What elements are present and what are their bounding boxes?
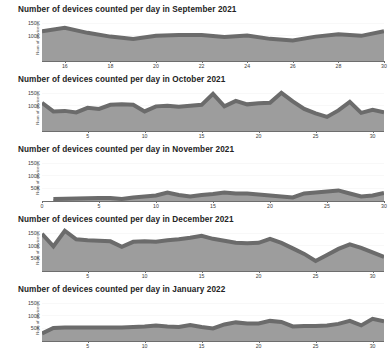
x-tick-mark — [99, 201, 100, 203]
y-tick-labels: 50K100K150K — [20, 227, 40, 271]
plot-area — [42, 87, 384, 131]
area-chart-svg — [42, 157, 384, 201]
x-tick-label: 24 — [244, 62, 250, 70]
x-tick-label: 15 — [199, 342, 205, 350]
x-tick-label: 15 — [210, 202, 216, 210]
x-tick-mark — [247, 61, 248, 63]
x-tick-mark — [338, 61, 339, 63]
x-tick-mark — [373, 131, 374, 133]
x-tick-mark — [145, 341, 146, 343]
x-tick-mark — [270, 201, 271, 203]
x-tick-mark — [145, 271, 146, 273]
x-tick-label: 0 — [41, 202, 44, 210]
charts-page: Number of devices counted per day in Sep… — [0, 0, 388, 360]
x-tick-label: 30 — [370, 132, 376, 140]
x-tick-label: 5 — [98, 202, 101, 210]
chart-title: Number of devices counted per day in Nov… — [18, 144, 388, 155]
x-tick-label: 30 — [370, 342, 376, 350]
x-tick-mark — [202, 271, 203, 273]
y-tick-labels: 50K100K150K — [20, 297, 40, 341]
x-tick-mark — [259, 341, 260, 343]
plot-row: Num of devices 100K150K 51015202530 — [0, 87, 388, 139]
y-tick-label: 50K — [31, 325, 40, 331]
x-tick-labels: 51015202530 — [42, 132, 384, 141]
x-tick-label: 10 — [153, 202, 159, 210]
x-tick-label: 10 — [142, 132, 148, 140]
x-tick-label: 5 — [86, 272, 89, 280]
x-tick-mark — [88, 341, 89, 343]
x-tick-mark — [327, 201, 328, 203]
x-tick-mark — [65, 61, 66, 63]
y-tick-label: 150K — [28, 230, 40, 236]
plot-row: Num of devices 50K100K150K 51015202530 — [0, 297, 388, 349]
x-tick-mark — [259, 131, 260, 133]
x-tick-mark — [156, 201, 157, 203]
plot-area — [42, 227, 384, 271]
x-tick-label: 26 — [290, 62, 296, 70]
x-tick-mark — [259, 271, 260, 273]
x-tick-labels: 1618202224262830 — [42, 62, 384, 71]
x-tick-mark — [293, 61, 294, 63]
x-tick-mark — [88, 271, 89, 273]
x-tick-label: 20 — [153, 62, 159, 70]
y-tick-labels: 100K150K — [20, 87, 40, 131]
x-tick-mark — [373, 341, 374, 343]
y-tick-label: 150K — [28, 90, 40, 96]
plot-area — [42, 157, 384, 201]
plot-row: Num of devices 100K150K 1618202224262830 — [0, 17, 388, 69]
x-tick-label: 20 — [267, 202, 273, 210]
x-tick-label: 30 — [381, 202, 387, 210]
x-tick-mark — [384, 61, 385, 63]
y-tick-label: 100K — [28, 103, 40, 109]
y-tick-label: 150K — [28, 160, 40, 166]
x-tick-label: 5 — [86, 132, 89, 140]
x-tick-mark — [213, 201, 214, 203]
x-tick-label: 20 — [256, 272, 262, 280]
x-tick-mark — [42, 201, 43, 203]
chart-panel-october: Number of devices counted per day in Oct… — [0, 74, 388, 144]
x-tick-label: 18 — [108, 62, 114, 70]
x-tick-label: 25 — [313, 132, 319, 140]
x-tick-mark — [145, 131, 146, 133]
y-tick-label: 150K — [28, 300, 40, 306]
y-tick-label: 100K — [28, 313, 40, 319]
y-tick-labels: 50K100K150K — [20, 157, 40, 201]
plot-row: Num of devices 50K100K150K 051015202530 — [0, 157, 388, 209]
x-tick-mark — [202, 131, 203, 133]
x-tick-mark — [202, 341, 203, 343]
chart-title: Number of devices counted per day in Jan… — [18, 284, 388, 295]
chart-panel-november: Number of devices counted per day in Nov… — [0, 144, 388, 214]
chart-panel-december: Number of devices counted per day in Dec… — [0, 214, 388, 284]
x-tick-label: 16 — [62, 62, 68, 70]
x-tick-label: 10 — [142, 342, 148, 350]
chart-title: Number of devices counted per day in Dec… — [18, 214, 388, 225]
chart-panel-september: Number of devices counted per day in Sep… — [0, 4, 388, 74]
y-tick-label: 100K — [28, 173, 40, 179]
x-tick-label: 30 — [370, 272, 376, 280]
plot-area — [42, 297, 384, 341]
x-tick-label: 15 — [199, 132, 205, 140]
y-tick-label: 150K — [28, 20, 40, 26]
area-chart-svg — [42, 87, 384, 131]
y-tick-label: 50K — [31, 255, 40, 261]
area-chart-svg — [42, 297, 384, 341]
x-tick-mark — [88, 131, 89, 133]
x-tick-mark — [373, 271, 374, 273]
x-tick-label: 20 — [256, 132, 262, 140]
x-tick-mark — [156, 61, 157, 63]
x-tick-label: 10 — [142, 272, 148, 280]
x-tick-mark — [316, 271, 317, 273]
chart-title: Number of devices counted per day in Oct… — [18, 74, 388, 85]
x-tick-label: 5 — [86, 342, 89, 350]
chart-panel-january: Number of devices counted per day in Jan… — [0, 284, 388, 354]
y-tick-label: 100K — [28, 243, 40, 249]
x-tick-label: 28 — [336, 62, 342, 70]
plot-row: Num of devices 50K100K150K 51015202530 — [0, 227, 388, 279]
x-tick-label: 15 — [199, 272, 205, 280]
plot-area — [42, 17, 384, 61]
x-tick-labels: 51015202530 — [42, 272, 384, 281]
area-chart-svg — [42, 17, 384, 61]
x-tick-label: 25 — [324, 202, 330, 210]
y-tick-labels: 100K150K — [20, 17, 40, 61]
y-tick-label: 100K — [28, 33, 40, 39]
